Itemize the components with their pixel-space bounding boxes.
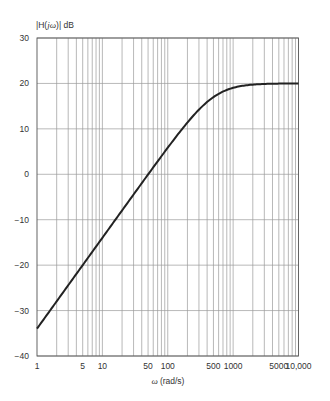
x-tick-label: 1 xyxy=(35,361,40,371)
y-axis-label: |H(jω)| dB xyxy=(36,20,74,30)
x-tick-label: 50 xyxy=(143,361,153,371)
y-tick-label: 0 xyxy=(24,169,29,179)
x-tick-label: 10 xyxy=(98,361,108,371)
y-tick-label: −40 xyxy=(15,351,30,361)
x-tick-label: 500 xyxy=(206,361,220,371)
grid-lines xyxy=(37,38,299,356)
x-tick-label: 1000 xyxy=(224,361,243,371)
x-tick-label: 5 xyxy=(80,361,85,371)
y-tick-label: −20 xyxy=(15,260,30,270)
x-tick-labels: 1510501005001000500010,000 xyxy=(35,361,312,371)
bode-magnitude-chart: 3020100−10−20−30−40 15105010050010005000… xyxy=(0,0,330,401)
y-tick-label: 10 xyxy=(20,124,30,134)
y-tick-label: −30 xyxy=(15,306,30,316)
x-tick-label: 100 xyxy=(161,361,175,371)
y-tick-label: 30 xyxy=(20,33,30,43)
y-tick-label: −10 xyxy=(15,215,30,225)
y-tick-label: 20 xyxy=(20,78,30,88)
x-axis-label: ω(rad/s) xyxy=(152,376,185,386)
y-tick-labels: 3020100−10−20−30−40 xyxy=(15,33,30,361)
x-tick-label: 10,000 xyxy=(286,361,312,371)
